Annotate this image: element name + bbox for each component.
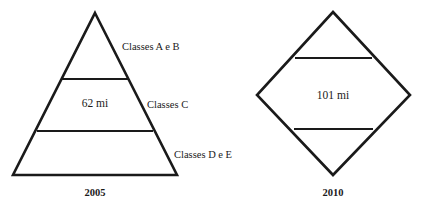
pyramid-center-value: 62 mi: [82, 97, 109, 109]
pyramid-label-middle: Classes C: [147, 99, 188, 110]
diagram-canvas: 62 mi Classes A e B Classes C Classes D …: [0, 0, 425, 207]
diamond-2010-group: 101 mi 2010: [257, 12, 410, 198]
pyramid-label-bottom: Classes D e E: [174, 149, 232, 160]
pyramid-2005-group: 62 mi Classes A e B Classes C Classes D …: [13, 13, 232, 198]
pyramid-outline: [13, 13, 177, 175]
pyramid-label-top: Classes A e B: [122, 41, 179, 52]
pyramid-year-label: 2005: [85, 187, 106, 198]
class-structure-figure: 62 mi Classes A e B Classes C Classes D …: [0, 0, 425, 207]
diamond-center-value: 101 mi: [317, 89, 349, 101]
diamond-year-label: 2010: [323, 187, 344, 198]
